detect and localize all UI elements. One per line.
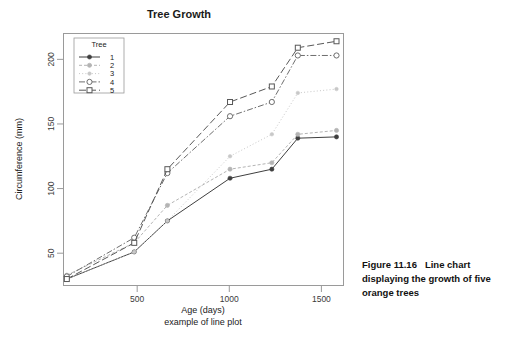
data-point: [227, 114, 232, 119]
x-tick-label: 500: [130, 294, 144, 304]
data-point: [165, 203, 169, 207]
data-point: [64, 277, 69, 282]
x-axis-sublabel: example of line plot: [164, 317, 242, 327]
chart-plot-area: Tree Growth 50100150200 50010001500 Tree…: [0, 0, 358, 340]
legend-title: Tree: [91, 40, 106, 49]
data-point: [87, 88, 92, 93]
chart-svg: 50100150200 50010001500 Tree12345 Circum…: [0, 0, 358, 340]
data-point: [334, 128, 338, 132]
data-point: [228, 176, 232, 180]
data-point: [166, 219, 170, 223]
data-point: [228, 167, 232, 171]
data-point: [269, 99, 274, 104]
y-tick-label: 100: [46, 181, 56, 195]
x-axis-title: Age (days): [181, 305, 225, 315]
figure-container: Tree Growth 50100150200 50010001500 Tree…: [0, 0, 506, 358]
legend-label-5: 5: [110, 86, 114, 95]
y-tick-label: 200: [46, 52, 56, 66]
data-point: [165, 167, 170, 172]
data-point: [228, 99, 233, 104]
y-axis-title: Circumference (mm): [14, 118, 24, 200]
figure-caption: Figure 11.16Line chart displaying the gr…: [362, 258, 502, 299]
y-axis: 50100150200: [46, 52, 63, 258]
data-point: [132, 250, 136, 254]
data-point: [296, 136, 300, 140]
data-point: [335, 87, 339, 91]
y-tick-label: 50: [46, 248, 56, 258]
y-tick-label: 150: [46, 117, 56, 131]
chart-legend: Tree12345: [74, 38, 124, 95]
x-axis: 50010001500: [130, 286, 331, 305]
data-point: [270, 161, 274, 165]
caption-number: Figure 11.16: [362, 259, 417, 270]
data-point: [295, 53, 300, 58]
data-point: [87, 79, 92, 84]
series-line-3: [67, 89, 337, 279]
data-point: [88, 72, 92, 76]
data-point: [87, 63, 91, 67]
data-point: [296, 91, 300, 95]
data-point: [132, 240, 137, 245]
x-tick-label: 1000: [220, 294, 239, 304]
data-point: [270, 167, 274, 171]
data-point: [334, 39, 339, 44]
data-point: [270, 133, 274, 137]
data-point: [295, 45, 300, 50]
data-point: [228, 154, 232, 158]
x-tick-label: 1500: [312, 294, 331, 304]
data-point: [296, 132, 300, 136]
data-point: [334, 53, 339, 58]
data-point: [269, 84, 274, 89]
data-point: [334, 135, 338, 139]
data-point: [87, 55, 91, 59]
